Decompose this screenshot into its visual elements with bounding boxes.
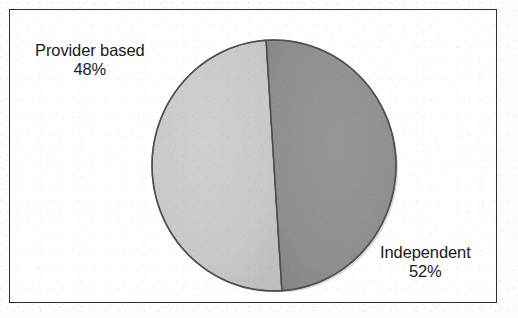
pie-label-provider-based-text: Provider based xyxy=(35,41,145,60)
chart-frame-border: Provider based 48% Independent 52% xyxy=(9,9,497,303)
pie-svg xyxy=(150,39,398,292)
pie-label-provider-based-percent: 48% xyxy=(35,60,145,79)
pie-label-independent-percent: 52% xyxy=(380,262,471,281)
pie-label-independent-text: Independent xyxy=(380,243,471,262)
pie-label-independent: Independent 52% xyxy=(380,243,471,281)
pie-chart xyxy=(150,39,398,292)
pie-slice-independent[interactable] xyxy=(266,40,396,291)
figure-root: Provider based 48% Independent 52% xyxy=(0,0,518,318)
pie-label-provider-based: Provider based 48% xyxy=(35,41,145,79)
pie-slice-provider-based[interactable] xyxy=(152,40,282,291)
